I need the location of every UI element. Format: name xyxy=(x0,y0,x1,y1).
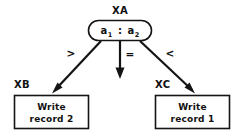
process-node-xb-tag: XB xyxy=(14,79,30,90)
edge-greater-than-line xyxy=(56,41,102,90)
decision-node-xa[interactable]: XA a 1 : a 2 xyxy=(89,5,152,41)
diagram-canvas: > = < XA a 1 : a 2 XB Write record 2 xyxy=(0,0,240,136)
process-node-xc[interactable]: XC Write record 1 xyxy=(155,79,230,129)
edge-label-greater-than: > xyxy=(67,47,76,59)
process-node-xb[interactable]: XB Write record 2 xyxy=(14,79,89,129)
compare-operand-left-subscript: 1 xyxy=(108,31,113,39)
compare-operand-right: a xyxy=(128,25,135,36)
compare-operand-right-subscript: 2 xyxy=(135,31,140,39)
process-node-xc-line2: record 1 xyxy=(171,114,215,124)
edge-equals xyxy=(116,41,125,79)
process-node-xc-tag: XC xyxy=(155,79,170,90)
process-node-xb-line1: Write xyxy=(37,102,66,112)
decision-node-xa-tag: XA xyxy=(112,5,128,16)
edge-label-equals: = xyxy=(126,48,135,60)
process-node-xb-line2: record 2 xyxy=(30,114,74,124)
compare-separator: : xyxy=(118,25,122,36)
process-node-xc-line1: Write xyxy=(178,102,207,112)
edge-equals-arrowhead xyxy=(116,68,125,80)
decision-tree-diagram: > = < XA a 1 : a 2 XB Write record 2 xyxy=(0,0,240,136)
edge-greater-than xyxy=(52,41,101,94)
compare-operand-left: a xyxy=(101,25,108,36)
edge-label-less-than: < xyxy=(166,47,175,59)
